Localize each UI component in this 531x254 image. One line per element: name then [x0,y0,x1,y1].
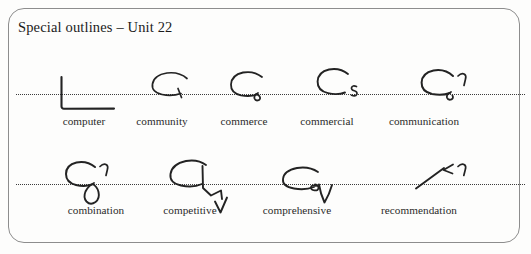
dotted-writing-baseline [16,184,525,185]
word-label-comprehensive: comprehensive [238,204,356,216]
word-label-commerce: commerce [204,115,284,127]
shorthand-outline-commercial [314,66,368,108]
word-label-competitive: competitive [142,204,238,216]
word-label-commercial: commercial [284,115,370,127]
practice-row-1: computer community commerce commercial c… [0,60,531,138]
word-captions-row-2: combination competitive comprehensive re… [0,204,531,216]
dotted-writing-baseline [16,94,525,95]
shorthand-outlines-row-2 [0,152,531,238]
word-label-computer: computer [48,115,120,127]
practice-row-2: combination competitive comprehensive re… [0,152,531,238]
page-title: Special outlines – Unit 22 [18,19,173,36]
shorthand-outline-commerce [227,68,277,110]
word-label-communication: communication [370,115,478,127]
word-label-community: community [120,115,204,127]
shorthand-outline-recommendation [410,158,478,204]
shorthand-outline-community [148,68,200,108]
word-captions-row-1: computer community commerce commercial c… [0,115,531,127]
word-label-combination: combination [50,204,142,216]
shorthand-worksheet-page: Special outlines – Unit 22 [0,0,531,254]
shorthand-outline-communication [417,64,479,108]
word-label-recommendation: recommendation [356,204,482,216]
